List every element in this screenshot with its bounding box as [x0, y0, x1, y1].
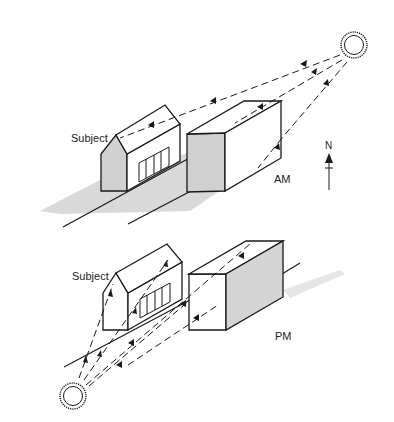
- pm-ground-shadow: [283, 270, 345, 298]
- am-light-ray: [235, 60, 342, 123]
- pm-subject-label: Subject: [72, 271, 109, 282]
- am-subject-label: Subject: [71, 133, 108, 144]
- am-panel: [40, 32, 367, 227]
- pm-sun-icon: [60, 383, 86, 409]
- am-sun-icon: [341, 32, 367, 58]
- am-neighbor-building: [187, 101, 281, 192]
- am-time-label: AM: [274, 174, 291, 185]
- diagram-svg: [0, 0, 394, 422]
- diagram-canvas: Subject AM N Subject PM: [0, 0, 394, 422]
- north-arrow-icon: [325, 153, 333, 190]
- compass-north-label: N: [325, 141, 332, 151]
- pm-neighbor-building: [189, 241, 283, 330]
- pm-subject-house: [103, 244, 182, 330]
- pm-panel: [60, 241, 345, 409]
- pm-time-label: PM: [275, 331, 292, 342]
